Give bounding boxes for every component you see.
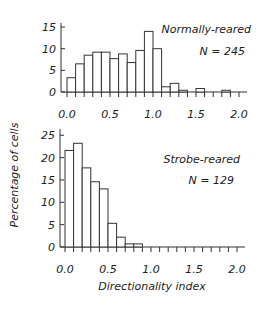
- y-tick-label: 15: [42, 21, 56, 34]
- x-tick-label: 1.5: [187, 108, 205, 121]
- histogram-bar: [170, 83, 179, 92]
- y-tick-label: 25: [41, 129, 55, 142]
- x-tick-label: 2.0: [230, 108, 248, 121]
- histogram-bar: [110, 59, 119, 92]
- x-tick-label: 1.5: [185, 263, 203, 276]
- y-tick-label: 5: [48, 219, 55, 232]
- histogram-bar: [222, 90, 231, 92]
- x-tick-label: 0.5: [101, 108, 119, 121]
- x-tick-label: 2.0: [228, 263, 246, 276]
- y-tick-label: 10: [42, 43, 56, 56]
- sample-size-label: N = 245: [200, 45, 245, 58]
- histogram-bar: [144, 31, 153, 92]
- y-tick-label: 0: [49, 86, 56, 99]
- histogram-bar: [117, 237, 126, 247]
- histogram-bar: [125, 244, 134, 247]
- histogram-bar: [153, 49, 162, 92]
- x-tick-label: 0.5: [99, 263, 117, 276]
- x-tick-label: 1.0: [142, 263, 160, 276]
- x-tick-label: 0.0: [56, 263, 74, 276]
- panel-title: Strobe-reared: [163, 153, 241, 166]
- panel-title: Normally-reared: [162, 23, 252, 36]
- histogram-bar: [162, 87, 171, 92]
- histogram-bar: [136, 50, 145, 92]
- histogram-bar: [134, 244, 143, 247]
- histogram-figure: 0510150.00.51.01.52.0Normally-rearedN = …: [0, 0, 263, 312]
- y-axis-label: Percentage of cells: [8, 122, 21, 227]
- histogram-bar: [82, 168, 91, 247]
- x-tick-label: 1.0: [144, 108, 162, 121]
- histogram-bar: [65, 150, 74, 247]
- histogram-bar: [119, 54, 128, 92]
- sample-size-label: N = 129: [189, 174, 234, 187]
- histogram-bar: [108, 223, 117, 247]
- histogram-bar: [74, 143, 83, 247]
- x-tick-label: 0.0: [58, 108, 76, 121]
- histogram-bar: [76, 64, 85, 92]
- histogram-bar: [179, 90, 188, 92]
- y-tick-label: 5: [49, 64, 56, 77]
- y-tick-label: 15: [41, 174, 55, 187]
- x-axis-label: Directionality index: [98, 280, 206, 293]
- y-tick-label: 0: [48, 241, 55, 254]
- y-tick-label: 10: [41, 196, 55, 209]
- histogram-bar: [93, 52, 102, 92]
- histogram-bar: [101, 52, 110, 92]
- y-tick-label: 20: [41, 152, 55, 165]
- strobe-reared-panel: 05101520250.00.51.01.52.0Strobe-rearedN …: [41, 129, 246, 276]
- histogram-bar: [99, 189, 108, 247]
- histogram-bar: [84, 55, 93, 92]
- normally-reared-panel: 0510150.00.51.01.52.0Normally-rearedN = …: [42, 21, 252, 121]
- histogram-bar: [67, 78, 76, 92]
- histogram-bar: [196, 89, 205, 92]
- histogram-bar: [127, 63, 136, 92]
- histogram-bar: [91, 182, 100, 247]
